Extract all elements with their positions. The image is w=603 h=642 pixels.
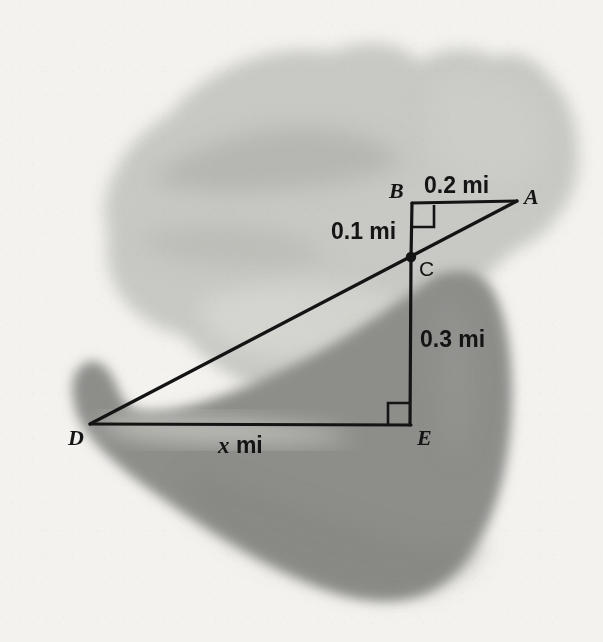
segment-d-e (90, 424, 411, 425)
point-label-a: A (524, 186, 539, 208)
figure-canvas (0, 0, 603, 642)
point-label-c: C (419, 258, 434, 279)
segment-c-e (410, 258, 411, 425)
point-label-d: D (68, 427, 84, 449)
vertex-dot-c (406, 252, 416, 262)
measurement-label-de: x mi (218, 434, 263, 457)
point-label-b: B (389, 180, 404, 202)
measurement-label-bc: 0.1 mi (331, 220, 396, 243)
point-label-e: E (417, 427, 432, 449)
measurement-label-ce: 0.3 mi (420, 328, 485, 351)
measurement-unit-de: mi (230, 432, 263, 458)
geometry-figure: A B C D E 0.2 mi 0.1 mi 0.3 mi x mi (0, 0, 603, 642)
segment-b-a (412, 201, 517, 203)
measurement-label-ba: 0.2 mi (424, 174, 489, 197)
segment-b-c (411, 203, 412, 258)
variable-x: x (218, 433, 230, 458)
